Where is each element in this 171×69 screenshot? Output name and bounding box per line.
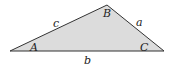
triangle-diagram: A B C a b c xyxy=(0,0,171,69)
vertex-label-b: B xyxy=(102,7,111,20)
side-label-b: b xyxy=(84,54,91,67)
side-label-c: c xyxy=(53,17,59,30)
side-label-a: a xyxy=(136,16,143,29)
vertex-label-a: A xyxy=(29,41,38,54)
vertex-label-c: C xyxy=(140,41,149,54)
